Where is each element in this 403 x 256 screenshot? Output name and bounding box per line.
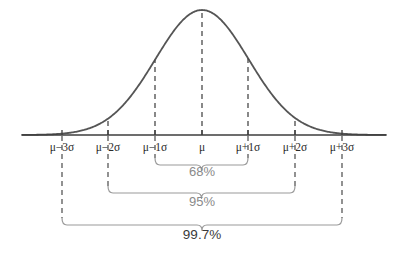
sigma-dashed-lines bbox=[108, 10, 295, 135]
axis-tick-labels: μ−3σμ−2σμ−1σμμ+1σμ+2σμ+3σ bbox=[50, 141, 355, 154]
distribution-chart-canvas: μ−3σμ−2σμ−1σμμ+1σμ+2σμ+3σ 68%95%99.7% bbox=[0, 0, 403, 256]
interval-percent-labels: 68%95%99.7% bbox=[183, 164, 221, 242]
interval-95-label: 95% bbox=[189, 194, 215, 209]
axis-tick-label-3: μ bbox=[199, 141, 205, 154]
axis-tick-marks bbox=[62, 130, 342, 135]
interval-997-label: 99.7% bbox=[183, 227, 221, 242]
normal-distribution-figure: μ−3σμ−2σμ−1σμμ+1σμ+2σμ+3σ 68%95%99.7% bbox=[0, 0, 403, 256]
interval-68-label: 68% bbox=[189, 164, 215, 179]
bell-curve bbox=[22, 10, 386, 135]
